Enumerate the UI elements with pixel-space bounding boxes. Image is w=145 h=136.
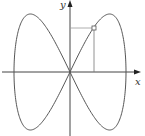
diagram-canvas: y x bbox=[0, 0, 145, 136]
figure-eight-plot bbox=[0, 0, 145, 136]
x-axis-label: x bbox=[135, 77, 141, 87]
marked-point bbox=[92, 26, 96, 30]
y-axis-arrow-icon bbox=[68, 0, 73, 7]
y-axis-label: y bbox=[60, 0, 66, 10]
x-axis-arrow-icon bbox=[134, 70, 141, 75]
